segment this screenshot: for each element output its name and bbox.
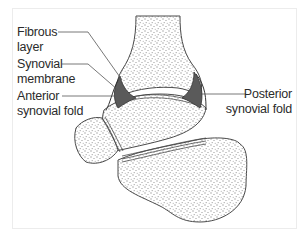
label-line: synovial fold	[222, 102, 292, 117]
label-synovial-membrane: Synovial membrane	[17, 57, 75, 87]
label-line: synovial fold	[17, 104, 83, 119]
calcaneus-bone	[118, 138, 247, 222]
label-line: membrane	[17, 72, 75, 87]
label-line: Posterior	[222, 87, 292, 102]
label-anterior-synovial-fold: Anterior synovial fold	[17, 89, 83, 119]
tibia-bone	[117, 16, 201, 96]
label-line: Synovial	[17, 57, 75, 72]
label-line: layer	[17, 40, 57, 55]
label-line: Fibrous	[17, 25, 57, 40]
label-fibrous-layer: Fibrous layer	[17, 25, 57, 55]
label-posterior-synovial-fold: Posterior synovial fold	[222, 87, 292, 117]
label-line: Anterior	[17, 89, 83, 104]
